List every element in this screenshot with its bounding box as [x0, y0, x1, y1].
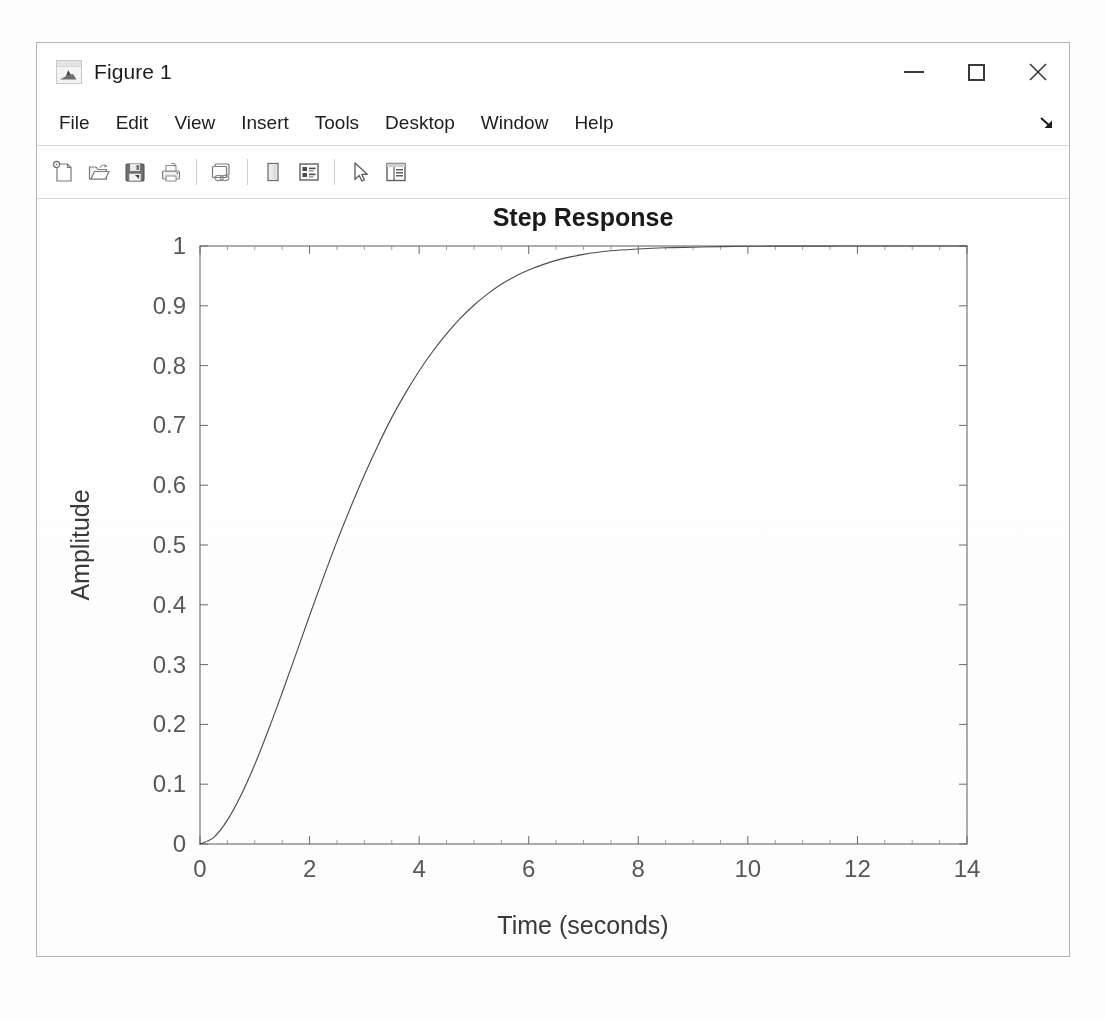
printer-icon [158, 159, 184, 185]
minimize-button[interactable] [883, 43, 945, 101]
plot-background [37, 199, 1069, 956]
y-tick-label: 0.8 [153, 352, 186, 379]
link-plot-button[interactable] [204, 153, 240, 191]
x-axis-label: Time (seconds) [497, 911, 668, 939]
new-figure-button[interactable] [45, 153, 81, 191]
toolbar-separator-3 [334, 159, 335, 185]
save-figure-button[interactable] [117, 153, 153, 191]
y-tick-label: 0.9 [153, 292, 186, 319]
new-figure-icon [50, 159, 76, 185]
menu-item-insert[interactable]: Insert [228, 109, 302, 138]
plot-title: Step Response [493, 203, 674, 231]
y-tick-label: 0.7 [153, 411, 186, 438]
menu-item-tools[interactable]: Tools [302, 109, 372, 138]
y-tick-label: 0.6 [153, 471, 186, 498]
window-title: Figure 1 [94, 60, 172, 84]
matlab-logo-svg [59, 67, 79, 82]
pointer-arrow-icon [347, 159, 373, 185]
figure-window: Figure 1 File Edit View [36, 42, 1070, 957]
x-tick-label: 2 [303, 855, 316, 882]
menu-item-file[interactable]: File [46, 109, 103, 138]
y-tick-label: 0.2 [153, 710, 186, 737]
x-tick-label: 0 [193, 855, 206, 882]
menu-item-help[interactable]: Help [561, 109, 626, 138]
y-tick-label: 0.4 [153, 591, 186, 618]
figure-canvas[interactable]: 02468101214 00.10.20.30.40.50.60.70.80.9… [37, 199, 1069, 956]
legend-icon [296, 159, 322, 185]
x-tick-label: 4 [412, 855, 425, 882]
title-bar: Figure 1 [37, 43, 1069, 101]
y-tick-label: 0.3 [153, 651, 186, 678]
toolbar-separator-1 [196, 159, 197, 185]
print-figure-button[interactable] [153, 153, 189, 191]
x-tick-label: 14 [954, 855, 981, 882]
colorbar-icon [260, 159, 286, 185]
link-plot-icon [209, 159, 235, 185]
save-disk-icon [122, 159, 148, 185]
step-response-plot[interactable]: 02468101214 00.10.20.30.40.50.60.70.80.9… [37, 199, 1069, 956]
minimize-icon [904, 71, 924, 73]
maximize-button[interactable] [945, 43, 1007, 101]
menu-item-view[interactable]: View [161, 109, 228, 138]
matlab-membrane-icon [56, 60, 82, 84]
y-tick-label: 0.1 [153, 770, 186, 797]
maximize-icon [968, 64, 985, 81]
insert-colorbar-button[interactable] [255, 153, 291, 191]
y-axis-label: Amplitude [66, 489, 94, 600]
open-folder-icon [86, 159, 112, 185]
undock-arrow-svg [1037, 113, 1057, 133]
menu-item-desktop[interactable]: Desktop [372, 109, 468, 138]
close-icon [1027, 61, 1049, 83]
toolbar-separator-2 [247, 159, 248, 185]
y-tick-label: 1 [173, 232, 186, 259]
insert-legend-button[interactable] [291, 153, 327, 191]
x-tick-label: 8 [632, 855, 645, 882]
undock-arrow-icon[interactable] [1036, 112, 1058, 134]
menu-bar: File Edit View Insert Tools Desktop Wind… [37, 101, 1069, 146]
menu-item-edit[interactable]: Edit [103, 109, 162, 138]
x-tick-label: 10 [735, 855, 762, 882]
close-button[interactable] [1007, 43, 1069, 101]
property-inspector-icon [383, 159, 409, 185]
x-tick-label: 6 [522, 855, 535, 882]
edit-plot-button[interactable] [342, 153, 378, 191]
y-tick-label: 0 [173, 830, 186, 857]
toolbar [37, 146, 1069, 199]
open-file-button[interactable] [81, 153, 117, 191]
show-property-inspector-button[interactable] [378, 153, 414, 191]
window-controls [883, 43, 1069, 101]
y-tick-label: 0.5 [153, 531, 186, 558]
screenshot-root: Figure 1 File Edit View [0, 0, 1105, 1019]
x-tick-label: 12 [844, 855, 871, 882]
menu-item-window[interactable]: Window [468, 109, 562, 138]
